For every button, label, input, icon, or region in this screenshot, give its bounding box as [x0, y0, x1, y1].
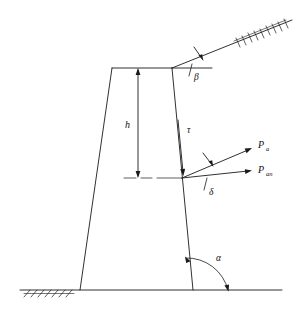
tau-arrow-line [178, 120, 183, 172]
wall-base-angle-label: α [216, 253, 222, 263]
pa-label-subscript: a [266, 145, 269, 152]
diagram-canvas: h τ β δ α P a P an [0, 0, 302, 324]
backfill-slope-line [172, 20, 292, 68]
shear-stress-label: τ [187, 125, 191, 135]
pan-label-subscript: an [266, 170, 273, 177]
pan-label-group: P an [257, 164, 273, 177]
pa-label: P [257, 139, 264, 150]
pa-force-vector [182, 150, 248, 178]
pan-label: P [257, 164, 264, 175]
height-arrowhead-bottom [136, 171, 141, 178]
height-label: h [125, 119, 130, 130]
retaining-wall-diagram: h τ β δ α P a P an [0, 0, 302, 324]
delta-tick [204, 178, 207, 190]
tau-arrowhead [180, 169, 185, 176]
wall-back-face [172, 68, 193, 290]
pan-force-vector [182, 171, 248, 178]
beta-tick [189, 64, 192, 76]
slope-hatching [234, 19, 288, 47]
pa-label-group: P a [257, 139, 269, 152]
height-arrowhead-top [136, 68, 141, 75]
backfill-angle-label: β [193, 72, 199, 82]
wall-front-face [80, 68, 112, 290]
pa-arrowhead [245, 148, 252, 153]
wall-friction-angle-label: δ [209, 187, 214, 197]
pan-arrowhead [245, 169, 252, 174]
ground-hatching [24, 290, 74, 297]
